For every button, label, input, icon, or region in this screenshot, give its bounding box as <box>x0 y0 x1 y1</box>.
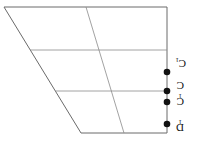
label-c: C <box>177 80 184 92</box>
grid-line-slanted <box>86 7 124 133</box>
point-d1 <box>164 121 171 128</box>
label-c1-lower: C 1 <box>177 92 184 108</box>
trapezoid-outline <box>4 7 167 133</box>
point-c <box>164 88 171 95</box>
label-d1: D 1 <box>176 118 184 134</box>
svg-text:1: 1 <box>178 118 182 126</box>
svg-text:1: 1 <box>178 92 182 100</box>
point-c1-upper <box>164 69 171 76</box>
point-c1-lower <box>164 99 171 106</box>
trapezoid-grid-diagram: C 1 C C 1 D 1 <box>0 0 198 149</box>
svg-text:1: 1 <box>175 56 179 64</box>
svg-text:C: C <box>177 80 184 92</box>
label-c1-upper: C 1 <box>175 56 186 70</box>
